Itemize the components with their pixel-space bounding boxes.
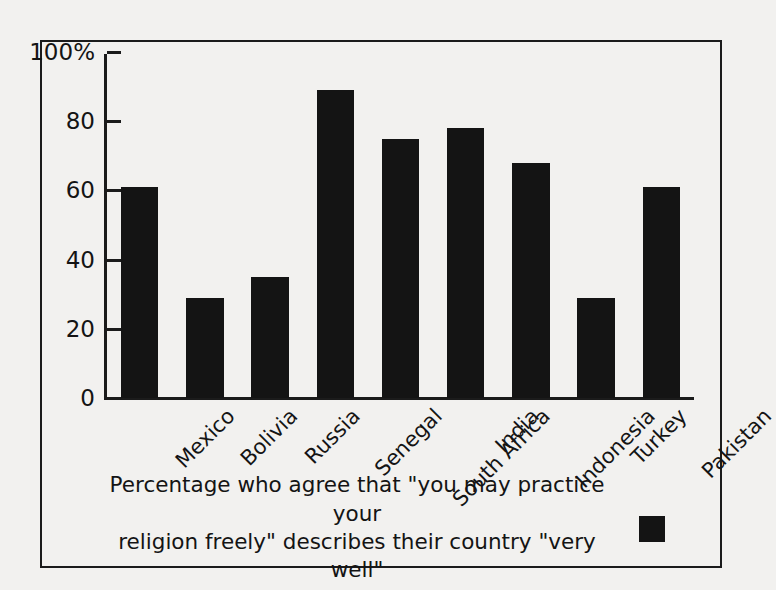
- bar-south-africa: [382, 139, 420, 399]
- legend-label-line-2: religion freely" describes their country…: [118, 529, 596, 582]
- chart-legend: Percentage who agree that "you may pract…: [42, 490, 720, 566]
- bar-mexico: [121, 187, 159, 398]
- x-axis-label-pakistan: Pakistan: [703, 404, 776, 481]
- bar-russia: [251, 277, 289, 398]
- bar-indonesia: [512, 163, 550, 398]
- bars-layer: [107, 52, 694, 398]
- legend-label-line-1: Percentage who agree that "you may pract…: [110, 472, 605, 525]
- x-axis-label-mexico: Mexico: [177, 404, 244, 471]
- y-tick-label-80: 80: [66, 110, 95, 133]
- x-axis-label-russia: Russia: [306, 404, 369, 467]
- bar-india: [447, 128, 485, 398]
- bar-pakistan: [643, 187, 681, 398]
- chart-frame: 020406080100% MexicoBoliviaRussiaSenegal…: [40, 40, 722, 568]
- x-axis-label-bolivia: Bolivia: [241, 404, 305, 468]
- x-axis-label-senegal: Senegal: [376, 404, 451, 479]
- legend-label: Percentage who agree that "you may pract…: [97, 471, 617, 585]
- bar-turkey: [577, 298, 615, 398]
- y-tick-label-40: 40: [66, 248, 95, 271]
- y-tick-label-60: 60: [66, 179, 95, 202]
- y-tick-label-0: 0: [80, 387, 95, 410]
- plot-area: 020406080100%: [104, 52, 694, 400]
- bar-bolivia: [186, 298, 224, 398]
- y-tick-label-20: 20: [66, 317, 95, 340]
- legend-color-swatch: [639, 516, 665, 542]
- y-tick-label-100: 100%: [29, 41, 95, 64]
- bar-senegal: [317, 90, 355, 398]
